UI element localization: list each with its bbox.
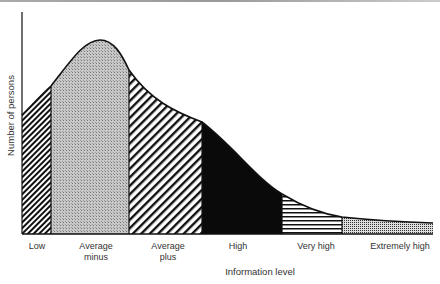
y-axis-label: Number of persons [5,68,16,164]
category-label-extremely-high: Extremely high [355,241,440,252]
category-label-line: plus [138,252,198,263]
category-label-average-minus: Average minus [66,241,126,263]
category-label-high: High [208,241,268,252]
category-label-line: Very high [281,241,351,252]
region-low [22,0,51,234]
region-extremely-high [342,0,433,234]
category-label-line: Low [21,241,53,252]
category-label-very-high: Very high [281,241,351,252]
category-label-line: Extremely high [355,241,440,252]
category-label-low: Low [21,241,53,252]
x-axis-label: Information level [200,266,320,277]
region-average-minus [51,0,129,234]
category-label-average-plus: Average plus [138,241,198,263]
category-label-line: Average [66,241,126,252]
category-label-line: minus [66,252,126,263]
category-label-line: High [208,241,268,252]
region-high [202,0,282,234]
category-label-line: Average [138,241,198,252]
